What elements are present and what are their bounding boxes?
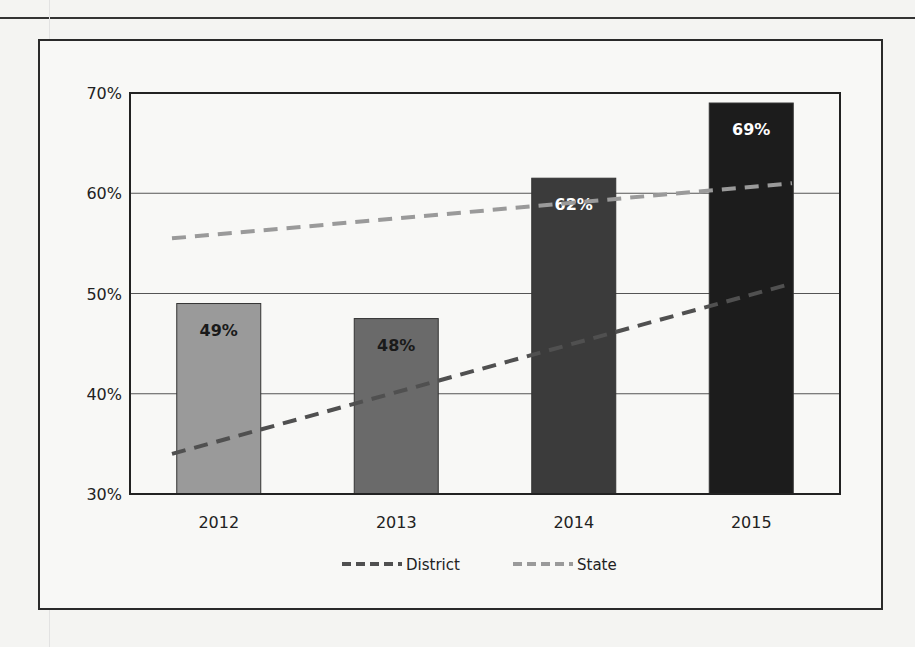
bar-value-label: 49% <box>200 321 238 340</box>
y-tick-label: 30% <box>86 485 122 504</box>
bar-value-label: 48% <box>377 336 415 355</box>
x-tick-label: 2014 <box>553 513 594 532</box>
bar-value-label: 62% <box>555 195 593 214</box>
trend-lines <box>172 183 792 454</box>
y-tick-label: 60% <box>86 184 122 203</box>
legend: District State <box>342 556 617 574</box>
legend-state-label: State <box>577 556 617 574</box>
state-trend-line <box>172 183 792 238</box>
y-tick-label: 40% <box>86 385 122 404</box>
x-axis-ticks: 2012201320142015 <box>198 513 771 532</box>
chart: 49%48%62%69% 30%40%50%60%70% 20122013201… <box>0 0 915 647</box>
y-tick-label: 50% <box>86 285 122 304</box>
y-axis-ticks: 30%40%50%60%70% <box>86 84 122 504</box>
district-trend-line <box>172 283 792 453</box>
bar-value-label: 69% <box>732 120 770 139</box>
x-tick-label: 2013 <box>376 513 417 532</box>
y-tick-label: 70% <box>86 84 122 103</box>
legend-district-label: District <box>406 556 460 574</box>
bars: 49%48%62%69% <box>177 103 794 494</box>
x-tick-label: 2015 <box>731 513 772 532</box>
bar-2015 <box>709 103 793 494</box>
x-tick-label: 2012 <box>198 513 239 532</box>
